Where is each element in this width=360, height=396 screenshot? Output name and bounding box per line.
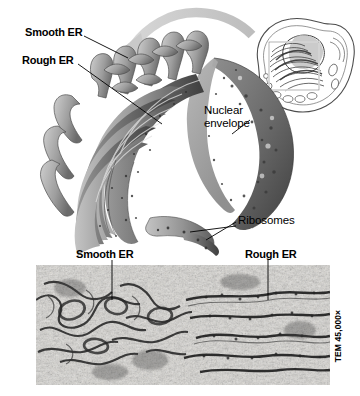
label-rough-er-illustration: Rough ER: [22, 54, 74, 66]
label-smooth-er-micrograph: Smooth ER: [76, 248, 133, 260]
label-nuclear-envelope: Nuclear envelope: [204, 104, 250, 130]
magnification-container: TEM 45,000×: [331, 293, 345, 379]
magnification-label: TEM 45,000×: [333, 310, 343, 362]
label-ribosomes: Ribosomes: [238, 214, 295, 227]
label-smooth-er-illustration: Smooth ER: [25, 26, 82, 38]
tem-micrograph: [36, 260, 330, 385]
er-figure: Smooth ER Rough ER Nuclear envelope Ribo…: [0, 0, 360, 396]
label-rough-er-micrograph: Rough ER: [245, 248, 297, 260]
